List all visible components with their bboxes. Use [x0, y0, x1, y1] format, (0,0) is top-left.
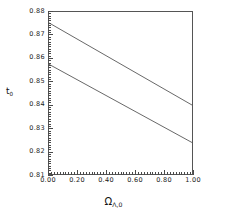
- y-tick-minor: [48, 51, 51, 52]
- x-axis-title: ΩΛ,0: [0, 196, 227, 211]
- y-tick-minor: [48, 88, 51, 89]
- x-tick-major: [48, 170, 49, 175]
- y-tick-minor: [48, 145, 51, 146]
- x-tick-minor: [167, 172, 168, 175]
- x-tick-minor: [80, 172, 81, 175]
- x-tick-minor: [60, 172, 61, 175]
- x-tick-minor: [57, 172, 58, 175]
- y-tick-minor: [48, 126, 51, 127]
- data-line-lower: [49, 64, 192, 142]
- x-tick-minor: [176, 172, 177, 175]
- y-tick-minor: [48, 109, 51, 110]
- y-tick-minor: [48, 65, 51, 66]
- data-lines: [49, 12, 192, 174]
- y-tick-minor: [48, 56, 51, 57]
- x-tick-minor: [103, 172, 104, 175]
- x-tick-major: [164, 170, 165, 175]
- x-tick-minor: [74, 172, 75, 175]
- chart-figure: t0 ΩΛ,0 0.810.820.830.840.850.860.870.88…: [0, 0, 227, 218]
- x-tick-major: [106, 170, 107, 175]
- x-tick-label: 1.00: [180, 177, 206, 184]
- y-tick-minor: [48, 166, 51, 167]
- y-tick-minor: [48, 121, 51, 122]
- y-tick-major: [48, 58, 53, 59]
- x-tick-minor: [126, 172, 127, 175]
- y-tick-minor: [48, 77, 51, 78]
- y-tick-minor: [48, 114, 51, 115]
- y-tick-label: 0.83: [29, 125, 45, 132]
- y-tick-minor: [48, 53, 51, 54]
- y-tick-minor: [48, 112, 51, 113]
- x-tick-minor: [170, 172, 171, 175]
- y-tick-minor: [48, 16, 51, 17]
- x-tick-minor: [147, 172, 148, 175]
- x-tick-minor: [89, 172, 90, 175]
- y-tick-minor: [48, 131, 51, 132]
- y-tick-minor: [48, 147, 51, 148]
- x-tick-minor: [97, 172, 98, 175]
- x-tick-major: [193, 170, 194, 175]
- x-tick-minor: [190, 172, 191, 175]
- x-tick-minor: [173, 172, 174, 175]
- y-axis-title: t0: [6, 86, 13, 99]
- y-tick-minor: [48, 44, 51, 45]
- x-tick-minor: [100, 172, 101, 175]
- x-axis-title-subscript: Λ,0: [112, 201, 122, 208]
- x-tick-minor: [181, 172, 182, 175]
- y-tick-minor: [48, 156, 51, 157]
- y-tick-minor: [48, 163, 51, 164]
- y-tick-minor: [48, 18, 51, 19]
- y-tick-label: 0.88: [29, 8, 45, 15]
- x-tick-minor: [129, 172, 130, 175]
- x-tick-minor: [112, 172, 113, 175]
- y-tick-minor: [48, 46, 51, 47]
- y-tick-minor: [48, 138, 51, 139]
- y-tick-minor: [48, 91, 51, 92]
- y-tick-minor: [48, 168, 51, 169]
- y-tick-minor: [48, 23, 51, 24]
- y-tick-minor: [48, 93, 51, 94]
- y-tick-major: [48, 128, 53, 129]
- x-tick-minor: [109, 172, 110, 175]
- y-tick-minor: [48, 37, 51, 38]
- y-tick-minor: [48, 49, 51, 50]
- y-tick-major: [48, 81, 53, 82]
- y-axis-title-subscript: 0: [10, 91, 14, 97]
- x-tick-minor: [65, 172, 66, 175]
- y-tick-minor: [48, 161, 51, 162]
- y-tick-minor: [48, 86, 51, 87]
- y-tick-minor: [48, 149, 51, 150]
- x-tick-minor: [54, 172, 55, 175]
- x-tick-minor: [121, 172, 122, 175]
- x-tick-minor: [132, 172, 133, 175]
- y-tick-minor: [48, 133, 51, 134]
- x-tick-minor: [92, 172, 93, 175]
- y-tick-minor: [48, 102, 51, 103]
- x-tick-minor: [118, 172, 119, 175]
- y-tick-minor: [48, 27, 51, 28]
- y-tick-major: [48, 11, 53, 12]
- x-tick-major: [77, 170, 78, 175]
- x-tick-minor: [187, 172, 188, 175]
- y-tick-minor: [48, 154, 51, 155]
- x-tick-minor: [86, 172, 87, 175]
- data-line-upper: [49, 23, 192, 105]
- y-tick-minor: [48, 84, 51, 85]
- y-tick-minor: [48, 79, 51, 80]
- x-tick-label: 0.20: [64, 177, 90, 184]
- y-tick-minor: [48, 42, 51, 43]
- y-tick-major: [48, 152, 53, 153]
- y-tick-minor: [48, 70, 51, 71]
- x-tick-label: 0.40: [93, 177, 119, 184]
- y-tick-minor: [48, 13, 51, 14]
- y-tick-label: 0.82: [29, 148, 45, 155]
- plot-area: [48, 11, 193, 175]
- x-tick-minor: [161, 172, 162, 175]
- x-tick-minor: [138, 172, 139, 175]
- y-tick-minor: [48, 74, 51, 75]
- x-tick-minor: [184, 172, 185, 175]
- y-tick-minor: [48, 30, 51, 31]
- y-tick-minor: [48, 140, 51, 141]
- x-tick-major: [135, 170, 136, 175]
- x-tick-minor: [68, 172, 69, 175]
